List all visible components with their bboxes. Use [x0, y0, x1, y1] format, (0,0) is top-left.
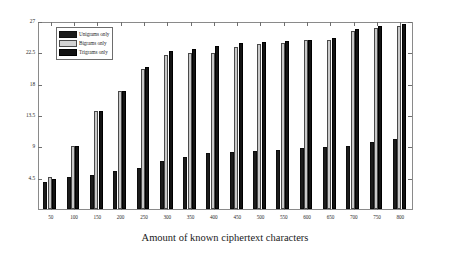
- legend-swatch-unigrams: [59, 31, 77, 38]
- bar-bigrams: [304, 40, 308, 209]
- x-tick-label: 700: [342, 215, 366, 220]
- bar-trigrams: [169, 51, 173, 209]
- legend-item-trigrams: Trigrams only: [59, 48, 109, 57]
- bar-trigrams: [192, 49, 196, 210]
- bar-unigrams: [323, 147, 327, 209]
- bar-unigrams: [253, 151, 257, 209]
- bar-bigrams: [188, 53, 192, 209]
- x-tick-label: 800: [388, 215, 412, 220]
- bar-group: [323, 23, 336, 209]
- bar-group: [113, 23, 126, 209]
- bar-unigrams: [183, 157, 187, 209]
- bar-bigrams: [211, 53, 215, 209]
- y-tick-label: 13.5: [13, 113, 35, 118]
- bar-unigrams: [346, 146, 350, 209]
- bar-bigrams: [71, 146, 75, 209]
- x-tick-label: 750: [365, 215, 389, 220]
- bar-trigrams: [285, 41, 289, 209]
- x-tick-label: 300: [155, 215, 179, 220]
- bar-group: [160, 23, 173, 209]
- bar-unigrams: [43, 182, 47, 209]
- bar-trigrams: [52, 179, 56, 209]
- x-tick-label: 100: [62, 215, 86, 220]
- bar-unigrams: [300, 148, 304, 209]
- bar-trigrams: [75, 146, 79, 209]
- bar-trigrams: [122, 91, 126, 209]
- bar-bigrams: [48, 177, 52, 209]
- bar-bigrams: [164, 55, 168, 209]
- legend-swatch-trigrams: [59, 49, 77, 56]
- x-tick-label: 600: [295, 215, 319, 220]
- y-tick-label: 9: [13, 144, 35, 149]
- x-axis-title: Amount of known ciphertext characters: [0, 232, 450, 243]
- bar-group: [137, 23, 150, 209]
- x-tick-label: 250: [132, 215, 156, 220]
- legend-swatch-bigrams: [59, 40, 77, 47]
- bar-bigrams: [234, 47, 238, 209]
- bar-trigrams: [378, 26, 382, 209]
- bar-group: [393, 23, 406, 209]
- bar-unigrams: [393, 139, 397, 209]
- x-tick-label: 650: [318, 215, 342, 220]
- legend-label-trigrams: Trigrams only: [79, 50, 108, 55]
- bar-bigrams: [281, 43, 285, 209]
- bar-trigrams: [308, 40, 312, 209]
- x-tick-label: 50: [39, 215, 63, 220]
- bar-group: [43, 23, 56, 209]
- bar-trigrams: [355, 29, 359, 209]
- y-tick-label: 27: [13, 19, 35, 24]
- bar-bigrams: [141, 69, 145, 209]
- legend-item-bigrams: Bigrams only: [59, 39, 109, 48]
- bar-bigrams: [351, 31, 355, 209]
- x-tick-label: 450: [225, 215, 249, 220]
- x-tick-label: 150: [85, 215, 109, 220]
- bar-bigrams: [397, 26, 401, 209]
- y-tick-label: 22.5: [13, 50, 35, 55]
- bar-unigrams: [276, 150, 280, 209]
- bar-group: [253, 23, 266, 209]
- x-tick-label: 500: [248, 215, 272, 220]
- bar-group: [300, 23, 313, 209]
- legend-item-unigrams: Unigrams only: [59, 30, 109, 39]
- legend-label-bigrams: Bigrams only: [79, 41, 107, 46]
- bar-group: [346, 23, 359, 209]
- x-tick-label: 400: [202, 215, 226, 220]
- chart-legend: Unigrams only Bigrams only Trigrams only: [56, 27, 113, 60]
- bar-trigrams: [262, 42, 266, 209]
- y-tick-label: 18: [13, 82, 35, 87]
- bar-group: [230, 23, 243, 209]
- bar-trigrams: [332, 38, 336, 209]
- bar-group: [276, 23, 289, 209]
- bar-bigrams: [118, 91, 122, 209]
- bar-unigrams: [230, 152, 234, 209]
- bar-unigrams: [113, 171, 117, 209]
- bar-trigrams: [402, 24, 406, 209]
- bar-unigrams: [160, 161, 164, 209]
- bar-bigrams: [94, 111, 98, 210]
- x-tick-label: 200: [109, 215, 133, 220]
- bar-trigrams: [215, 46, 219, 209]
- bar-trigrams: [239, 43, 243, 209]
- bar-unigrams: [90, 175, 94, 209]
- x-tick-label: 350: [179, 215, 203, 220]
- bar-group: [370, 23, 383, 209]
- bar-unigrams: [67, 177, 71, 209]
- bar-unigrams: [137, 168, 141, 209]
- x-tick-label: 550: [272, 215, 296, 220]
- legend-label-unigrams: Unigrams only: [79, 32, 109, 37]
- bar-trigrams: [145, 67, 149, 209]
- bar-bigrams: [327, 40, 331, 209]
- bar-unigrams: [206, 153, 210, 209]
- bar-group: [183, 23, 196, 209]
- bar-group: [206, 23, 219, 209]
- bar-trigrams: [99, 111, 103, 209]
- bar-bigrams: [374, 28, 378, 209]
- bar-unigrams: [370, 142, 374, 210]
- bar-bigrams: [257, 44, 261, 209]
- y-tick-label: 4.5: [13, 176, 35, 181]
- figure-canvas: 4.5913.51822.527 50100150200250300350400…: [0, 0, 450, 262]
